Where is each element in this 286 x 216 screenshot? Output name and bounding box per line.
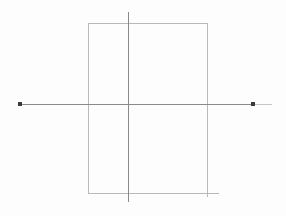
right-point-marker — [251, 102, 255, 106]
canvas-background — [0, 0, 286, 216]
drawing-canvas — [0, 0, 286, 216]
left-point-marker — [18, 102, 22, 106]
line-drawing-figure — [0, 0, 286, 216]
